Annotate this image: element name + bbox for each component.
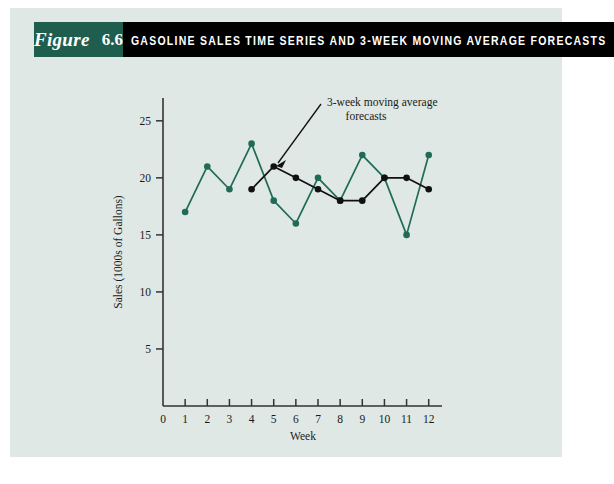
figure-number: 6.6 — [102, 30, 123, 50]
figure-panel — [10, 8, 562, 457]
figure-title: GASOLINE SALES TIME SERIES AND 3-WEEK MO… — [131, 33, 607, 47]
figure-header: Figure 6.6 GASOLINE SALES TIME SERIES AN… — [34, 22, 554, 57]
figure-number-tag: Figure 6.6 — [34, 22, 123, 57]
figure-label-word: Figure — [34, 29, 90, 51]
figure-title-bar: GASOLINE SALES TIME SERIES AND 3-WEEK MO… — [123, 22, 614, 57]
